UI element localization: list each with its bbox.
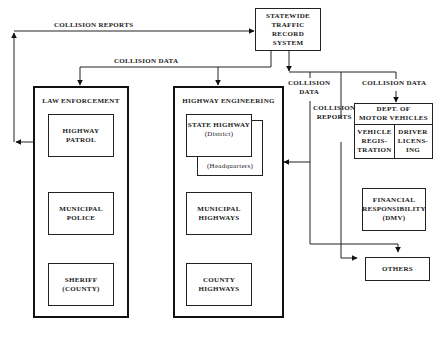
others-box: OTHERS bbox=[365, 257, 430, 281]
financial-label-1: FINANCIAL bbox=[373, 196, 415, 205]
headquarters-label: (Headquarters) bbox=[207, 162, 253, 171]
municipal-highways-label-2: HIGHWAYS bbox=[198, 214, 239, 223]
edge-label-collision-data-mid-1: COLLISION bbox=[288, 79, 330, 88]
edge-label-collision-data-dmv: COLLISION DATA bbox=[362, 79, 426, 88]
driver-licensing-cell: DRIVER LICENS- ING bbox=[394, 124, 432, 158]
statewide-label-1: STATEWIDE bbox=[266, 12, 310, 21]
law-enforcement-group: LAW ENFORCEMENT HIGHWAY PATROL MUNICIPAL… bbox=[33, 86, 129, 318]
statewide-traffic-record-system-box: STATEWIDE TRAFFIC RECORD SYSTEM bbox=[255, 8, 321, 51]
vehicle-registration-label-1: VEHICLE bbox=[357, 128, 391, 137]
edge-label-collision-reports-top: COLLISION REPORTS bbox=[54, 21, 133, 30]
municipal-police-box: MUNICIPAL POLICE bbox=[48, 192, 114, 235]
vehicle-registration-label-3: TRATION bbox=[357, 146, 391, 155]
others-label: OTHERS bbox=[382, 265, 413, 274]
sheriff-label-2: (COUNTY) bbox=[62, 285, 99, 294]
municipal-police-label-1: MUNICIPAL bbox=[59, 205, 102, 214]
financial-responsibility-box: FINANCIAL RESPONSIBILITY (DMV) bbox=[362, 188, 426, 231]
highway-patrol-label-2: PATROL bbox=[66, 136, 96, 145]
financial-label-2: RESPONSIBILITY bbox=[362, 205, 426, 214]
county-highways-label-1: COUNTY bbox=[203, 276, 235, 285]
sheriff-label-1: SHERIFF bbox=[65, 276, 97, 285]
statewide-label-2: TRAFFIC bbox=[271, 21, 304, 30]
law-enforcement-title: LAW ENFORCEMENT bbox=[35, 97, 127, 105]
dmv-title-1: DEPT. OF bbox=[377, 105, 411, 114]
highway-patrol-box: HIGHWAY PATROL bbox=[48, 114, 114, 157]
highway-patrol-label-1: HIGHWAY bbox=[63, 127, 100, 136]
state-highway-district-box: STATE HIGHWAY (District) bbox=[186, 114, 252, 157]
driver-licensing-label-3: ING bbox=[406, 146, 420, 155]
vehicle-registration-label-2: REGIS- bbox=[362, 137, 388, 146]
financial-label-3: (DMV) bbox=[383, 214, 406, 223]
vehicle-registration-cell: VEHICLE REGIS- TRATION bbox=[355, 124, 395, 158]
edge-label-collision-reports-mid: COLLISION REPORTS bbox=[313, 104, 355, 122]
municipal-highways-label-1: MUNICIPAL bbox=[197, 205, 240, 214]
dmv-header: DEPT. OF MOTOR VEHICLES bbox=[355, 104, 432, 125]
municipal-highways-box: MUNICIPAL HIGHWAYS bbox=[186, 192, 252, 235]
edge-label-collision-data-mid-2: DATA bbox=[288, 88, 330, 97]
statewide-label-4: SYSTEM bbox=[273, 39, 304, 48]
sheriff-county-box: SHERIFF (COUNTY) bbox=[48, 263, 114, 306]
dmv-box: DEPT. OF MOTOR VEHICLES VEHICLE REGIS- T… bbox=[354, 103, 433, 159]
edge-label-collision-reports-mid-1: COLLISION bbox=[313, 104, 355, 113]
edge-label-collision-data-mid: COLLISION DATA bbox=[288, 79, 330, 97]
edge-label-collision-reports-mid-2: REPORTS bbox=[313, 113, 355, 122]
district-label: (District) bbox=[205, 130, 234, 139]
county-highways-box: COUNTY HIGHWAYS bbox=[186, 263, 252, 306]
driver-licensing-label-2: LICENS- bbox=[398, 137, 429, 146]
highway-engineering-group: HIGHWAY ENGINEERING (Headquarters) STATE… bbox=[173, 86, 284, 318]
highway-engineering-title: HIGHWAY ENGINEERING bbox=[175, 97, 282, 105]
edge-label-collision-data-left: COLLISION DATA bbox=[114, 57, 178, 66]
statewide-label-3: RECORD bbox=[272, 30, 304, 39]
county-highways-label-2: HIGHWAYS bbox=[198, 285, 239, 294]
driver-licensing-label-1: DRIVER bbox=[398, 128, 427, 137]
state-highway-label: STATE HIGHWAY bbox=[188, 121, 250, 130]
municipal-police-label-2: POLICE bbox=[67, 214, 96, 223]
dmv-title-2: MOTOR VEHICLES bbox=[359, 114, 428, 123]
